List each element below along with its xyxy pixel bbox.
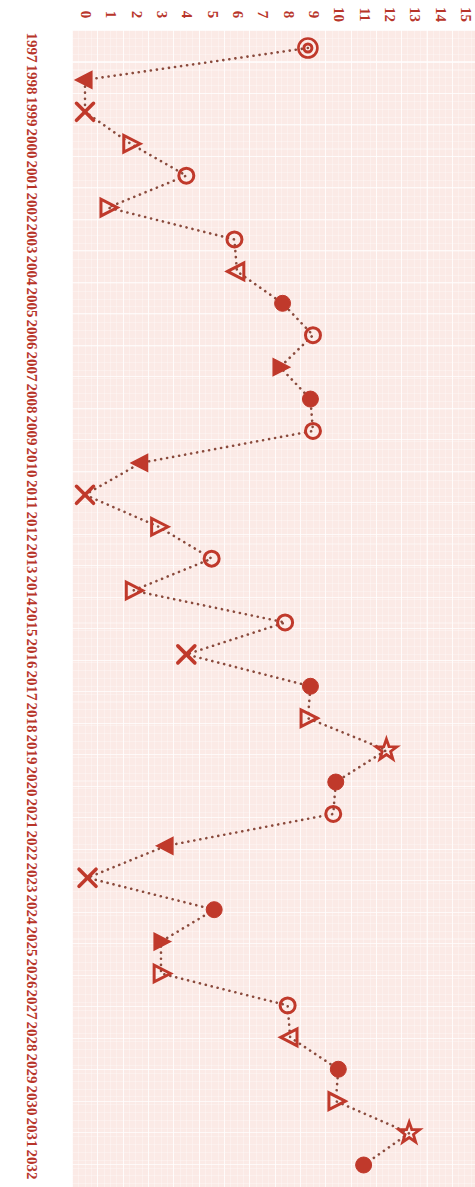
data-point-2000[interactable] — [124, 135, 140, 152]
series-connector-line — [85, 48, 409, 1165]
data-point-2008[interactable] — [302, 391, 318, 407]
data-point-2013[interactable] — [204, 551, 219, 566]
data-point-2026[interactable] — [154, 965, 170, 982]
data-point-2024[interactable] — [206, 902, 222, 918]
data-point-2006[interactable] — [305, 328, 320, 343]
data-point-2020[interactable] — [328, 774, 344, 790]
x-tick-14: 14 — [431, 0, 448, 30]
data-point-2010[interactable] — [131, 455, 147, 472]
x-tick-0: 0 — [77, 0, 94, 30]
data-point-2016[interactable] — [178, 646, 195, 663]
x-tick-6: 6 — [228, 0, 245, 30]
x-tick-2: 2 — [127, 0, 144, 30]
x-tick-3: 3 — [152, 0, 169, 30]
x-tick-15: 15 — [456, 0, 473, 30]
data-point-2017[interactable] — [302, 678, 318, 694]
x-tick-12: 12 — [380, 0, 397, 30]
plot-area — [72, 30, 475, 1187]
x-tick-4: 4 — [178, 0, 195, 30]
x-tick-10: 10 — [330, 0, 347, 30]
chart-figure: 0123456789101112131415 19971998199920002… — [0, 0, 475, 1187]
data-point-2011[interactable] — [77, 486, 94, 503]
x-tick-13: 13 — [406, 0, 423, 30]
x-tick-8: 8 — [279, 0, 296, 30]
x-tick-9: 9 — [304, 0, 321, 30]
data-point-2032[interactable] — [356, 1157, 372, 1173]
data-point-2012[interactable] — [152, 518, 168, 535]
x-tick-11: 11 — [355, 0, 372, 30]
data-point-2031[interactable] — [399, 1122, 420, 1142]
data-point-2028[interactable] — [281, 1029, 297, 1046]
x-tick-1: 1 — [102, 0, 119, 30]
x-tick-5: 5 — [203, 0, 220, 30]
data-point-2005[interactable] — [275, 295, 291, 311]
data-point-2025[interactable] — [154, 933, 170, 950]
data-series-layer — [72, 30, 475, 1187]
data-point-2023[interactable] — [79, 869, 96, 886]
data-point-2029[interactable] — [330, 1061, 346, 1077]
y-tick-2032: 2032 — [23, 1131, 40, 1187]
data-point-2022[interactable] — [157, 837, 173, 854]
data-point-2019[interactable] — [376, 739, 397, 759]
data-point-2007[interactable] — [273, 359, 289, 376]
data-point-2015[interactable] — [278, 615, 293, 630]
data-point-1998[interactable] — [76, 72, 92, 89]
x-tick-7: 7 — [254, 0, 271, 30]
data-point-2004[interactable] — [227, 263, 243, 280]
